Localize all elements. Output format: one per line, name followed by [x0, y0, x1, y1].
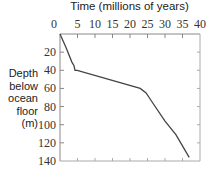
y-tick-label: 40	[44, 63, 56, 77]
x-tick-label: 0	[51, 17, 57, 31]
y-tick-label: 100	[38, 118, 56, 132]
data-line	[60, 34, 189, 157]
x-tick-label: 25	[142, 17, 154, 31]
x-tick-label: 15	[107, 17, 119, 31]
y-tick-label: 140	[38, 154, 56, 168]
y-tick-label: 20	[44, 45, 56, 59]
x-axis-ticks: 0510152025303540	[51, 17, 206, 161]
x-tick-label: 10	[89, 17, 101, 31]
plot-frame	[60, 34, 200, 161]
y-axis-ticks: 20406080100120140	[38, 45, 200, 168]
x-tick-label: 40	[194, 17, 206, 31]
x-tick-label: 5	[75, 17, 81, 31]
x-tick-label: 30	[159, 17, 171, 31]
plot-area: 0510152025303540 20406080100120140	[0, 0, 211, 177]
y-tick-label: 120	[38, 136, 56, 150]
x-tick-label: 20	[124, 17, 136, 31]
y-tick-label: 60	[44, 81, 56, 95]
x-tick-label: 35	[177, 17, 189, 31]
y-tick-label: 80	[44, 100, 56, 114]
